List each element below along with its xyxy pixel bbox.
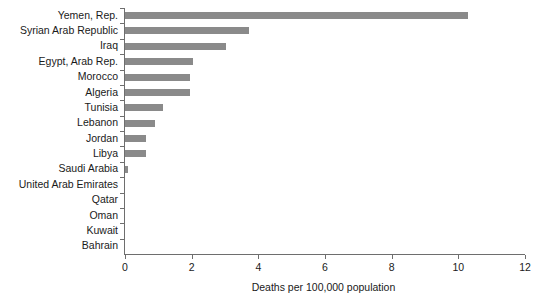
bar-row — [125, 239, 525, 254]
category-label: Bahrain — [0, 240, 118, 251]
bar-row — [125, 8, 525, 23]
x-axis-tick-label: 4 — [243, 261, 273, 273]
y-axis-tick — [120, 70, 124, 71]
bar-row — [125, 54, 525, 69]
x-axis-tick — [125, 255, 126, 259]
x-axis-tick — [325, 255, 326, 259]
category-label: Tunisia — [0, 102, 118, 113]
bar — [125, 135, 146, 142]
y-axis-tick — [120, 146, 124, 147]
x-axis-tick-label: 12 — [510, 261, 540, 273]
x-axis-tick — [458, 255, 459, 259]
y-axis-tick — [120, 39, 124, 40]
bar-row — [125, 39, 525, 54]
bar — [125, 27, 249, 34]
x-axis-tick — [525, 255, 526, 259]
y-axis-tick — [120, 23, 124, 24]
category-label: Yemen, Rep. — [0, 10, 118, 21]
plot-area — [125, 8, 525, 254]
y-axis-tick — [120, 223, 124, 224]
category-label: Saudi Arabia — [0, 163, 118, 174]
x-axis-tick-label: 8 — [377, 261, 407, 273]
bar — [125, 43, 226, 50]
category-label: Iraq — [0, 40, 118, 51]
category-label: United Arab Emirates — [0, 179, 118, 190]
x-axis-title: Deaths per 100,000 population — [0, 281, 541, 293]
x-axis-title-text: Deaths per 100,000 population — [252, 281, 396, 293]
bar — [125, 150, 146, 157]
category-label: Jordan — [0, 133, 118, 144]
y-axis-tick — [120, 239, 124, 240]
bar-row — [125, 223, 525, 238]
x-axis-tick — [192, 255, 193, 259]
category-label: Egypt, Arab Rep. — [0, 56, 118, 67]
category-label: Syrian Arab Republic — [0, 25, 118, 36]
y-axis-tick — [120, 131, 124, 132]
bar — [125, 74, 190, 81]
y-axis-tick — [120, 100, 124, 101]
y-axis-tick — [120, 208, 124, 209]
category-label: Oman — [0, 210, 118, 221]
bar-row — [125, 70, 525, 85]
bar-chart: Yemen, Rep.Syrian Arab RepublicIraqEgypt… — [0, 0, 541, 303]
category-label: Algeria — [0, 87, 118, 98]
bar-row — [125, 177, 525, 192]
bar-row — [125, 208, 525, 223]
bar — [125, 104, 163, 111]
y-axis-tick — [120, 162, 124, 163]
category-label: Morocco — [0, 71, 118, 82]
bar — [125, 120, 155, 127]
bar-row — [125, 162, 525, 177]
y-axis-tick — [120, 54, 124, 55]
x-axis-tick-label: 2 — [177, 261, 207, 273]
x-axis-tick — [392, 255, 393, 259]
bar-row — [125, 100, 525, 115]
category-label: Lebanon — [0, 117, 118, 128]
category-label: Qatar — [0, 194, 118, 205]
bar-row — [125, 146, 525, 161]
x-axis-tick-label: 6 — [310, 261, 340, 273]
bar — [125, 166, 128, 173]
y-axis-tick — [120, 85, 124, 86]
x-axis-tick-label: 10 — [443, 261, 473, 273]
x-axis-tick-label: 0 — [110, 261, 140, 273]
x-axis-tick — [258, 255, 259, 259]
bar-row — [125, 23, 525, 38]
bar-row — [125, 193, 525, 208]
y-axis-tick — [120, 193, 124, 194]
bar — [125, 12, 468, 19]
bar-row — [125, 85, 525, 100]
y-axis-tick — [120, 177, 124, 178]
y-axis-tick — [120, 8, 124, 9]
bar — [125, 89, 190, 96]
category-label: Libya — [0, 148, 118, 159]
bar-row — [125, 131, 525, 146]
y-axis-tick — [120, 116, 124, 117]
category-label: Kuwait — [0, 225, 118, 236]
bar-row — [125, 116, 525, 131]
bar — [125, 58, 193, 65]
